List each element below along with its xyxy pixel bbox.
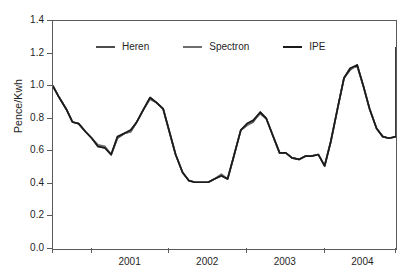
- legend-label: Heren: [122, 41, 149, 52]
- y-axis-tick-label: 0.8: [0, 112, 44, 123]
- chart-legend: HerenSpectronIPE: [96, 41, 325, 52]
- y-axis-title: Pence/Kwh: [12, 56, 24, 156]
- y-axis-tick: [47, 20, 52, 21]
- legend-label: IPE: [309, 41, 325, 52]
- y-axis-tick: [47, 150, 52, 151]
- x-axis-tick-label: 2003: [250, 256, 320, 267]
- y-axis-tick: [47, 183, 52, 184]
- y-axis-tick-label: 0.0: [0, 242, 44, 253]
- x-axis-tick: [168, 248, 169, 253]
- x-axis-tick-label: 2001: [95, 256, 165, 267]
- x-axis-tick: [324, 248, 325, 253]
- y-axis-tick: [47, 118, 52, 119]
- legend-item-heren[interactable]: Heren: [96, 41, 149, 52]
- series-line-heren: [53, 65, 396, 182]
- series-line-ipe: [53, 65, 396, 182]
- y-axis-tick-label: 0.6: [0, 144, 44, 155]
- y-axis-tick-label: 1.0: [0, 79, 44, 90]
- y-axis-tick: [47, 85, 52, 86]
- series-line-spectron: [53, 67, 396, 183]
- y-axis-tick-label: 1.4: [0, 14, 44, 25]
- x-axis-tick: [52, 248, 53, 253]
- y-axis-tick: [47, 215, 52, 216]
- legend-swatch-ipe: [283, 46, 302, 48]
- y-axis-tick-label: 1.2: [0, 47, 44, 58]
- x-axis-tick-label: 2004: [327, 256, 397, 267]
- y-axis-tick-label: 0.4: [0, 177, 44, 188]
- series-canvas: [53, 21, 396, 249]
- x-axis-tick-label: 2002: [172, 256, 242, 267]
- chart-figure: Pence/Kwh 0.00.20.40.60.81.01.21.4 20012…: [0, 0, 413, 279]
- legend-label: Spectron: [209, 41, 249, 52]
- legend-swatch-heren: [96, 46, 115, 48]
- x-axis-tick: [246, 248, 247, 253]
- x-axis-tick: [395, 248, 396, 253]
- plot-area: [52, 20, 397, 250]
- legend-item-spectron[interactable]: Spectron: [183, 41, 249, 52]
- legend-swatch-spectron: [183, 46, 202, 48]
- y-axis-tick: [47, 53, 52, 54]
- y-axis-tick-label: 0.2: [0, 209, 44, 220]
- legend-item-ipe[interactable]: IPE: [283, 41, 325, 52]
- x-axis-tick: [91, 248, 92, 253]
